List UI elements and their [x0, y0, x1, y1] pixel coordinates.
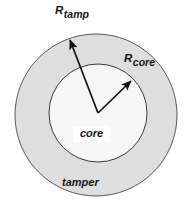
core-tamper-diagram: Rtamp Rcore core tamper — [0, 0, 190, 205]
r-core-base: R — [124, 52, 132, 64]
core-region-label: core — [73, 126, 110, 142]
r-core-subscript: core — [133, 56, 155, 68]
r-tamp-label: Rtamp — [55, 5, 88, 17]
r-tamp-base: R — [55, 4, 63, 16]
diagram-canvas — [0, 0, 190, 205]
tamper-region-label: tamper — [62, 177, 99, 188]
r-tamp-subscript: tamp — [64, 8, 89, 20]
r-core-label: Rcore — [124, 53, 155, 65]
